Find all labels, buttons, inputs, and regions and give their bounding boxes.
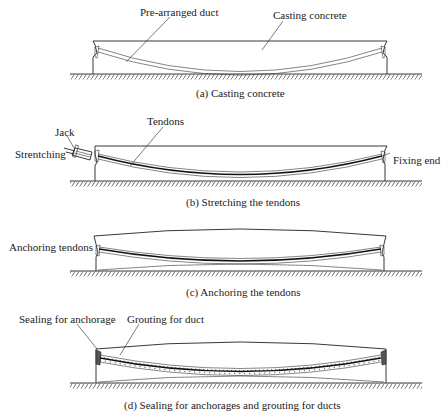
label-casting-concrete: Casting concrete xyxy=(273,9,347,21)
label-pre-arranged-duct: Pre-arranged duct xyxy=(140,6,219,18)
label-sealing-for-anchorage: Sealing for anchorage xyxy=(19,313,116,325)
label-fixing-end: Fixing end xyxy=(393,154,441,166)
panel-a: Pre-arranged duct Casting concrete (a) C… xyxy=(70,6,422,100)
leader-duct xyxy=(126,17,170,62)
panel-c: Anchoring tendons (c) Anchoring the tend… xyxy=(9,229,422,299)
caption-b: (b) Stretching the tendons xyxy=(186,196,300,209)
label-anchoring-tendons: Anchoring tendons xyxy=(9,241,93,253)
label-stretching: Strentching xyxy=(15,148,66,160)
leader-tendons xyxy=(130,127,163,166)
ground-c xyxy=(70,271,422,277)
beam-a xyxy=(93,41,387,75)
label-tendons: Tendons xyxy=(147,115,184,127)
panel-b: Tendons Jack Strentching Fixing end (b) … xyxy=(15,115,441,209)
leader-sealing xyxy=(77,324,97,349)
label-jack: Jack xyxy=(55,126,75,138)
ground-b xyxy=(70,181,422,187)
label-grouting-for-duct: Grouting for duct xyxy=(127,313,204,325)
beam-b xyxy=(95,146,390,181)
caption-c: (c) Anchoring the tendons xyxy=(186,286,301,299)
panel-d: Sealing for anchorage Grouting for duct … xyxy=(19,313,422,412)
caption-d: (d) Sealing for anchorages and grouting … xyxy=(124,399,341,412)
beam-c xyxy=(94,229,386,271)
ground-d xyxy=(70,383,422,389)
caption-a: (a) Casting concrete xyxy=(196,87,285,100)
leader-grouting xyxy=(120,324,139,355)
leader-concrete xyxy=(262,21,283,50)
beam-d xyxy=(96,342,386,383)
jack xyxy=(64,145,92,160)
post-tensioning-diagram: Pre-arranged duct Casting concrete (a) C… xyxy=(0,0,446,415)
